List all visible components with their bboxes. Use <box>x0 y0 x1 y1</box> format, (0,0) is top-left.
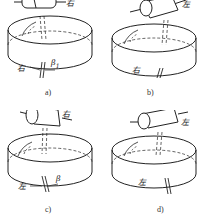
worm-hand-label-b: 左 <box>182 0 190 9</box>
panel-c: 右 左 β c) <box>0 110 102 220</box>
wheel-hand-label-a: 右 <box>17 62 25 73</box>
panel-a: 右 右 β1 a) <box>0 0 102 110</box>
angle-label-a: β1 <box>51 58 59 69</box>
angle-label-c: β <box>56 174 61 183</box>
wheel-hand-label-c: 左 <box>18 180 26 191</box>
wheel-hand-label-d: 左 <box>138 176 146 187</box>
caption-d: d) <box>157 205 164 214</box>
worm-hand-label-d: 左 <box>181 116 189 127</box>
worm-hand-label-c: 右 <box>62 108 70 119</box>
panel-b: 左 右 b) <box>102 0 204 110</box>
beta-subscript: 1 <box>56 62 60 69</box>
wheel-hand-label-b: 右 <box>132 64 140 75</box>
worm-hand-label-a: 右 <box>66 0 74 8</box>
caption-b: b) <box>147 88 154 97</box>
panel-d: 左 左 d) <box>102 110 204 220</box>
caption-a: a) <box>45 88 51 97</box>
caption-c: c) <box>45 205 51 214</box>
